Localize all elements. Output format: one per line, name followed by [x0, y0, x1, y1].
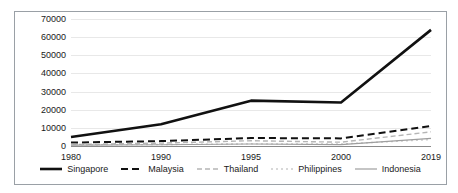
- x-tick-label: 1995: [241, 153, 261, 162]
- legend-swatch-thailand-icon: [197, 164, 219, 174]
- legend-label: Philippines: [298, 165, 342, 174]
- series-line-indonesia: [71, 138, 431, 145]
- legend-label: Indonesia: [382, 165, 421, 174]
- x-tick-label: 1980: [61, 153, 81, 162]
- legend-item-philippines[interactable]: Philippines: [271, 164, 342, 174]
- legend-swatch-indonesia-icon: [355, 164, 377, 174]
- legend-swatch-philippines-icon: [271, 164, 293, 174]
- y-tick-label: 30000: [41, 87, 66, 96]
- x-axis-line: [71, 146, 431, 147]
- y-tick-label: 40000: [41, 69, 66, 78]
- series-lines: [71, 19, 431, 146]
- y-tick-label: 0: [61, 142, 66, 151]
- chart-frame: 010000200003000040000500006000070000 198…: [14, 11, 447, 185]
- y-tick-label: 10000: [41, 123, 66, 132]
- legend-item-thailand[interactable]: Thailand: [197, 164, 259, 174]
- x-tick-label: 2000: [331, 153, 351, 162]
- legend-item-indonesia[interactable]: Indonesia: [355, 164, 421, 174]
- legend-item-malaysia[interactable]: Malaysia: [121, 164, 184, 174]
- legend-swatch-singapore-icon: [40, 164, 62, 174]
- legend-item-singapore[interactable]: Singapore: [40, 164, 108, 174]
- chart-legend: SingaporeMalaysiaThailandPhilippinesIndo…: [15, 164, 446, 174]
- y-tick-label: 20000: [41, 105, 66, 114]
- legend-swatch-malaysia-icon: [121, 164, 143, 174]
- y-tick-label: 60000: [41, 33, 66, 42]
- legend-label: Malaysia: [148, 165, 184, 174]
- y-tick-label: 70000: [41, 15, 66, 24]
- x-tick-label: 1990: [151, 153, 171, 162]
- legend-label: Singapore: [67, 165, 108, 174]
- legend-label: Thailand: [224, 165, 259, 174]
- series-line-singapore: [71, 30, 431, 137]
- x-tick-label: 2019: [421, 153, 441, 162]
- y-tick-label: 50000: [41, 51, 66, 60]
- plot-area: 010000200003000040000500006000070000 198…: [71, 19, 431, 146]
